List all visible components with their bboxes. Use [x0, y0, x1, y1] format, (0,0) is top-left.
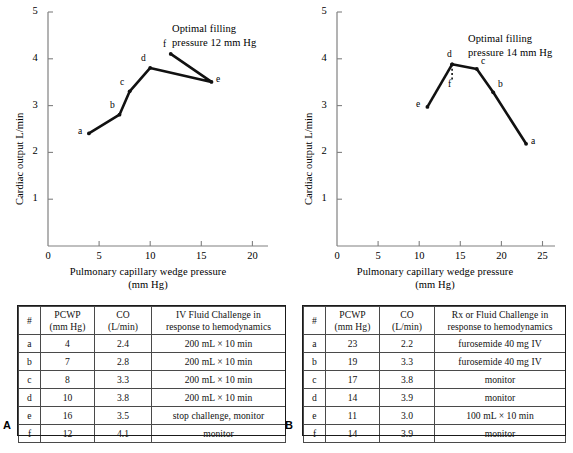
y-tick-label-5-b: 5 [317, 5, 331, 16]
y-tick-label-1-a: 1 [28, 192, 42, 203]
x-tick-label-25-b: 25 [536, 250, 550, 261]
point-label-b-a: b [110, 100, 115, 110]
x-tick-label-10-b: 10 [412, 250, 426, 261]
y-ticks-b [337, 12, 342, 199]
x-tick-label-15-a: 15 [194, 250, 208, 261]
point-label-d-b: d [447, 49, 452, 59]
panel-letter-b: B [285, 419, 293, 431]
chart-b-data-line-abcd [452, 64, 526, 144]
panel-letter-a: A [3, 419, 11, 431]
y-ticks-a [48, 12, 53, 199]
point-label-e-b: e [416, 99, 420, 109]
chart-a-annotation: Optimal filling pressure 12 mm Hg [172, 22, 256, 50]
chart-a-annotation-line1: Optimal filling [172, 23, 236, 34]
x-tick-label-10-a: 10 [143, 250, 157, 261]
chart-a-annotation-line2: pressure 12 mm Hg [172, 37, 256, 48]
chart-panel-a: 5 4 3 2 1 0 5 10 15 20 a b c d e f Optim… [0, 0, 287, 290]
y-axis-title-b: Cardiac output L/min [303, 113, 314, 205]
x-tick-label-20-a: 20 [245, 250, 259, 261]
x-tick-label-5-a: 5 [92, 250, 106, 261]
y-tick-label-3-a: 3 [28, 99, 42, 110]
y-tick-label-4-a: 4 [28, 52, 42, 63]
x-tick-label-0-a: 0 [41, 250, 55, 261]
chart-a-data-line [89, 54, 212, 133]
x-axis-title-a: Pulmonary capillary wedge pressure [28, 266, 268, 277]
point-label-f-a: f [163, 39, 166, 49]
chart-b-data-points [426, 62, 529, 145]
chart-b-annotation-line1: Optimal filling [468, 33, 532, 44]
x-tick-label-0-b: 0 [330, 250, 344, 261]
point-label-a-b: a [531, 136, 535, 146]
chart-b-annotation-line2: pressure 14 mm Hg [468, 47, 552, 58]
x-axis-title-b: Pulmonary capillary wedge pressure [315, 266, 555, 277]
x-tick-label-20-b: 20 [494, 250, 508, 261]
figure-panel-a: 5 4 3 2 1 0 5 10 15 20 a b c d e f Optim… [0, 0, 287, 453]
x-ticks-b [378, 241, 542, 246]
y-tick-label-5-a: 5 [28, 5, 42, 16]
point-label-c-a: c [120, 77, 124, 87]
y-tick-label-4-b: 4 [317, 52, 331, 63]
y-tick-label-3-b: 3 [317, 99, 331, 110]
x-tick-label-15-b: 15 [453, 250, 467, 261]
point-label-a-a: a [78, 126, 82, 136]
figure-panel-b: 5 4 3 2 1 0 5 10 15 20 25 a b c d e f Op… [287, 0, 573, 453]
point-label-b-b: b [498, 79, 503, 89]
y-tick-label-1-b: 1 [317, 192, 331, 203]
x-ticks-a [99, 241, 252, 246]
point-label-d-a: d [141, 53, 146, 63]
x-axis-units-b: (mm Hg) [315, 279, 555, 290]
x-tick-label-5-b: 5 [371, 250, 385, 261]
table-a-outer-frame [17, 305, 286, 436]
y-axis-title-a: Cardiac output L/min [14, 113, 25, 205]
y-tick-label-2-b: 2 [317, 145, 331, 156]
point-label-f-b: f [448, 79, 451, 89]
x-axis-units-a: (mm Hg) [28, 279, 268, 290]
chart-panel-b: 5 4 3 2 1 0 5 10 15 20 25 a b c d e f Op… [287, 0, 573, 290]
point-label-e-a: e [216, 74, 220, 84]
chart-b-annotation: Optimal filling pressure 14 mm Hg [468, 32, 552, 60]
table-b-outer-frame [302, 305, 566, 436]
y-tick-label-2-a: 2 [28, 145, 42, 156]
